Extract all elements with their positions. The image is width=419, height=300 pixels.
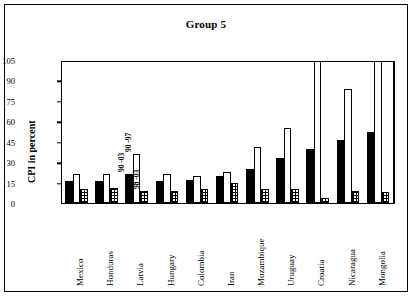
bar-annotation: 90 -03 <box>117 153 126 172</box>
y-tick-label: 15 <box>7 179 16 189</box>
y-tick-label: 75 <box>7 97 16 107</box>
bar-nicaragua-solid <box>337 140 345 203</box>
bar-group-uruguay <box>276 62 302 203</box>
bar-uruguay-hatch <box>291 189 299 203</box>
x-tick-label-honduras: Honduras <box>105 251 115 286</box>
bar-group-croatia <box>306 62 332 203</box>
bar-mexico-solid <box>65 181 73 203</box>
bar-mozambique-open <box>254 147 262 203</box>
bar-croatia-open <box>314 61 322 203</box>
bar-hungary-open <box>163 174 171 203</box>
bar-honduras-solid <box>95 181 103 203</box>
bar-croatia-hatch <box>321 198 329 203</box>
x-tick-label-hungary: Hungary <box>166 255 176 287</box>
axis-right-spine <box>393 61 395 204</box>
y-tick-label: 30 <box>7 158 16 168</box>
x-axis-labels: MexicoHondurasLatviaHungaryColombiaIranM… <box>61 208 393 294</box>
bar-hungary-solid <box>156 181 164 203</box>
bar-group-hungary <box>156 62 182 203</box>
bar-colombia-solid <box>186 180 194 203</box>
y-tick-label: 45 <box>7 138 16 148</box>
bar-croatia-solid <box>306 149 314 203</box>
bar-mongolia-open <box>374 61 382 203</box>
x-tick-label-mongolia: Mongolia <box>377 251 387 286</box>
x-tick-label-uruguay: Uruguay <box>286 255 296 287</box>
x-tick-label-nicaragua: Nicaragua <box>347 249 357 286</box>
bar-group-colombia <box>186 62 212 203</box>
y-axis-label: CPI in percent <box>26 120 37 183</box>
bar-iran-open <box>223 172 231 203</box>
x-tick-label-iran: Iran <box>226 272 236 287</box>
bar-group-honduras <box>95 62 121 203</box>
x-tick-label-colombia: Colombia <box>196 251 206 287</box>
y-tick-label: 0 <box>11 199 15 209</box>
bar-group-iran <box>216 62 242 203</box>
plot-area: 90 -0390 -9798 -03 <box>61 61 393 204</box>
bar-mongolia-solid <box>367 132 375 203</box>
bar-annotation: 98 -03 <box>132 169 141 188</box>
chart-frame: Group 5 CPI in percent 0153045607590105 … <box>4 4 408 292</box>
bar-group-nicaragua <box>337 62 363 203</box>
bar-nicaragua-open <box>344 89 352 203</box>
bar-group-mozambique <box>246 62 272 203</box>
bar-latvia-hatch <box>140 191 148 203</box>
bar-colombia-hatch <box>201 189 209 203</box>
bar-uruguay-open <box>284 128 292 203</box>
x-tick-label-mozambique: Mozambique <box>256 239 266 287</box>
bar-mozambique-hatch <box>261 189 269 203</box>
y-tick-label: 90 <box>7 76 16 86</box>
bar-colombia-open <box>193 176 201 203</box>
x-tick-label-croatia: Croatia <box>316 260 326 287</box>
bar-honduras-open <box>103 174 111 203</box>
chart-title: Group 5 <box>5 18 407 30</box>
bar-mexico-open <box>73 174 81 203</box>
bar-nicaragua-hatch <box>352 191 360 203</box>
bar-hungary-hatch <box>171 191 179 203</box>
bar-uruguay-solid <box>276 158 284 203</box>
bar-honduras-hatch <box>110 188 118 203</box>
x-tick-label-latvia: Latvia <box>135 263 145 286</box>
bar-group-mongolia <box>367 62 393 203</box>
bar-mozambique-solid <box>246 169 254 203</box>
bar-iran-solid <box>216 176 224 203</box>
bar-mexico-hatch <box>80 189 88 203</box>
y-tick-label: 60 <box>7 117 16 127</box>
x-tick-label-mexico: Mexico <box>75 259 85 287</box>
y-tick-label: 105 <box>2 56 15 66</box>
bar-iran-hatch <box>231 183 239 203</box>
bar-group-mexico <box>65 62 91 203</box>
bar-annotation: 90 -97 <box>124 133 133 152</box>
bar-mongolia-hatch <box>382 192 390 203</box>
